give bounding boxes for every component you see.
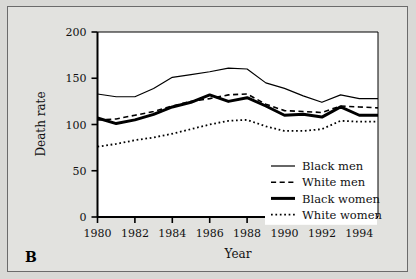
y-tick-label: 0 <box>80 211 87 224</box>
x-tick-label: 1980 <box>84 227 112 240</box>
figure-panel: 19801982198419861988199019921994 0501001… <box>0 0 416 279</box>
x-tick-label: 1992 <box>308 227 336 240</box>
x-tick-label: 1986 <box>196 227 224 240</box>
y-tick-label: 50 <box>73 165 87 178</box>
y-tick-label: 200 <box>66 26 87 39</box>
x-tick-label: 1994 <box>345 227 373 240</box>
y-tick-label: 150 <box>66 72 87 85</box>
y-axis-label: Death rate <box>34 91 48 156</box>
x-tick-label: 1984 <box>158 227 186 240</box>
x-tick-label: 1982 <box>121 227 149 240</box>
y-tick-label: 100 <box>66 119 87 132</box>
x-tick-label: 1990 <box>271 227 299 240</box>
panel-letter: B <box>25 249 37 265</box>
legend-label-white-women: White women <box>302 208 382 222</box>
x-tick-label: 1988 <box>233 227 261 240</box>
line-chart: 19801982198419861988199019921994 0501001… <box>0 0 416 279</box>
x-axis-label: Year <box>224 247 252 261</box>
legend-label-white-men: White men <box>302 175 366 189</box>
chart-legend: Black menWhite menBlack womenWhite women <box>265 154 382 225</box>
legend-label-black-men: Black men <box>302 159 364 173</box>
legend-label-black-women: Black women <box>302 192 381 206</box>
y-axis-ticks: 050100150200 <box>66 26 98 224</box>
